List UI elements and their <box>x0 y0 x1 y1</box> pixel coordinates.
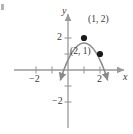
point-label-2-1: (2, 1) <box>70 47 91 57</box>
data-point-2-1 <box>97 51 103 57</box>
graph-figure: y x −2 2 2 −2 (1, 2) (2, 1) <box>0 0 133 134</box>
x-tick-label-neg2: −2 <box>29 74 40 84</box>
coordinate-plane-svg <box>0 0 133 134</box>
x-axis-label: x <box>123 72 127 82</box>
parabola-left-arrow <box>60 74 62 81</box>
data-point-1-2 <box>81 35 87 41</box>
y-axis-label: y <box>62 6 66 16</box>
x-tick-label-2: 2 <box>97 74 102 84</box>
y-tick-label-neg2: −2 <box>52 96 63 106</box>
y-axis <box>65 14 72 128</box>
y-tick-label-2: 2 <box>57 32 62 42</box>
point-label-1-2: (1, 2) <box>88 15 109 25</box>
parabola-right-arrow <box>106 74 108 81</box>
